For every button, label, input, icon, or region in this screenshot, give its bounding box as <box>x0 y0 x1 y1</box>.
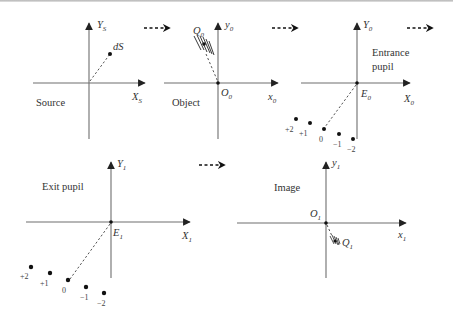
exit-y-label: Y1 <box>117 158 126 172</box>
image-ray <box>327 225 332 236</box>
exit-order-label-0: 0 <box>62 286 66 295</box>
entrance-caption-line2: pupil <box>372 61 394 72</box>
entrance-caption-line1: Entrance <box>372 47 410 58</box>
exit-order-minus2 <box>102 291 106 295</box>
object-y-label: y0 <box>224 19 234 33</box>
entrance-order-plus2 <box>294 117 298 121</box>
image-origin-label: O1 <box>310 208 321 222</box>
exit-origin-label: E1 <box>112 227 123 241</box>
exit-order-label-minus1: −1 <box>80 293 89 302</box>
source-x-label: XS <box>131 91 142 105</box>
exit-order-plus2 <box>29 265 33 269</box>
exit-order-label-plus1: +1 <box>40 279 49 288</box>
panel-object: Q0 y0 x0 O0 Object <box>164 19 278 139</box>
exit-x-label: X1 <box>181 230 192 244</box>
source-point-dS <box>108 52 112 56</box>
panel-exit-pupil: +2 +1 0 −1 −2 Y1 X1 E1 Exit pupil <box>20 158 192 308</box>
source-point-label: dS <box>113 41 124 52</box>
exit-ray <box>70 224 110 279</box>
image-x-label: x1 <box>397 229 406 243</box>
entrance-y-label: Y0 <box>363 19 373 33</box>
entrance-order-label-minus2: −2 <box>347 145 356 154</box>
exit-order-minus1 <box>84 285 88 289</box>
entrance-order-minus2 <box>351 137 355 141</box>
source-y-label: YS <box>97 19 107 33</box>
image-origin-O1 <box>324 221 328 225</box>
exit-order-label-minus2: −2 <box>97 299 106 308</box>
entrance-order-label-plus2: +2 <box>285 125 294 134</box>
entrance-order-0 <box>322 127 326 131</box>
entrance-origin-label: E0 <box>360 88 371 102</box>
object-point-Q0 <box>202 42 206 46</box>
image-point-Q1 <box>333 239 336 242</box>
entrance-order-minus1 <box>337 132 341 136</box>
entrance-x-label: X0 <box>403 93 414 107</box>
object-x-label: x0 <box>267 91 277 105</box>
entrance-order-plus1 <box>308 121 312 125</box>
panel-entrance-pupil: +2 +1 0 −1 −2 Y0 X0 E0 Entrance pupil <box>285 19 414 154</box>
entrance-order-label-0: 0 <box>319 135 323 144</box>
object-ray <box>206 54 218 82</box>
panel-source: dS YS XS Source <box>33 19 145 139</box>
source-caption: Source <box>36 97 65 108</box>
image-caption: Image <box>274 182 301 193</box>
exit-origin-E1 <box>109 220 113 224</box>
image-y-label: y1 <box>331 157 340 171</box>
entrance-origin-E0 <box>355 81 359 85</box>
source-ray <box>90 54 110 81</box>
object-origin-label: O0 <box>221 87 233 101</box>
panel-image: Q1 y1 x1 O1 Image <box>237 157 406 278</box>
image-point-label: Q1 <box>342 237 353 251</box>
exit-caption: Exit pupil <box>42 181 84 192</box>
exit-order-0 <box>66 278 70 282</box>
object-caption: Object <box>172 97 200 108</box>
entrance-order-label-minus1: −1 <box>333 140 342 149</box>
entrance-order-label-plus1: +1 <box>299 129 308 138</box>
exit-order-label-plus2: +2 <box>20 272 29 281</box>
object-origin-O0 <box>216 81 220 85</box>
exit-order-plus1 <box>48 271 52 275</box>
entrance-ray <box>325 85 356 127</box>
